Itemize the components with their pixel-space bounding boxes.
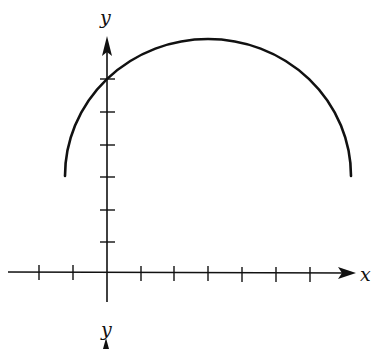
y-axis: y bbox=[99, 6, 115, 302]
second-graph-y-axis: y bbox=[100, 318, 112, 349]
x-axis-label: x bbox=[360, 263, 371, 285]
y-axis-label: y bbox=[99, 6, 111, 28]
semicircle-graph: x y bbox=[0, 0, 371, 349]
semicircle-curve bbox=[65, 39, 351, 176]
x-axis: x bbox=[8, 263, 371, 285]
second-y-axis-label: y bbox=[100, 318, 112, 340]
